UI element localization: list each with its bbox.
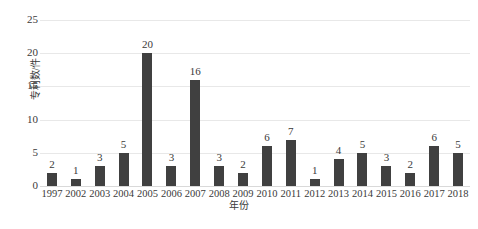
bar[interactable] <box>238 173 248 186</box>
bar[interactable] <box>262 146 272 186</box>
x-axis-tick-label: 2018 <box>446 188 470 200</box>
bar[interactable] <box>166 166 176 186</box>
y-axis-tick-label: 0 <box>4 180 38 191</box>
bar-value-label: 16 <box>190 66 201 77</box>
bar-value-label: 20 <box>142 39 153 50</box>
x-axis-tick-label: 2002 <box>64 188 88 200</box>
bar[interactable] <box>95 166 105 186</box>
y-axis-tick-label: 10 <box>4 114 38 125</box>
x-axis-tick-label: 2014 <box>351 188 375 200</box>
bar-slot: 16 <box>183 20 207 186</box>
bar-value-label: 5 <box>121 139 127 150</box>
bar-slot: 6 <box>255 20 279 186</box>
bar-value-label: 1 <box>312 165 318 176</box>
bar-value-label: 2 <box>240 159 246 170</box>
bar-slot: 7 <box>279 20 303 186</box>
bar-slot: 3 <box>207 20 231 186</box>
bar-slot: 1 <box>64 20 88 186</box>
bar-slot: 3 <box>88 20 112 186</box>
bar[interactable] <box>214 166 224 186</box>
bar-slot: 20 <box>136 20 160 186</box>
bar-value-label: 4 <box>336 145 342 156</box>
x-axis-tick-label: 2009 <box>231 188 255 200</box>
x-axis-tick-label: 2003 <box>88 188 112 200</box>
x-axis-title: 年份 <box>0 200 478 211</box>
bar[interactable] <box>334 159 344 186</box>
bar-slot: 4 <box>327 20 351 186</box>
plot-area: 21352031632671453265 <box>40 20 470 186</box>
y-axis-tick-label: 20 <box>4 47 38 58</box>
x-axis-tick-label: 2007 <box>183 188 207 200</box>
x-axis-tick-label: 2006 <box>159 188 183 200</box>
bar-slot: 6 <box>422 20 446 186</box>
bar[interactable] <box>119 153 129 186</box>
bar-chart-figure: 专利数/件 0510152025 21352031632671453265 19… <box>0 0 478 229</box>
x-axis-tick-label: 2004 <box>112 188 136 200</box>
x-axis-tick-label: 2015 <box>374 188 398 200</box>
bar-slot: 2 <box>231 20 255 186</box>
bar-slot: 1 <box>303 20 327 186</box>
bar-slot: 3 <box>374 20 398 186</box>
bar[interactable] <box>453 153 463 186</box>
top-edge-artifact <box>0 0 478 5</box>
bar-value-label: 6 <box>264 132 270 143</box>
bar[interactable] <box>47 173 57 186</box>
bar-slot: 5 <box>112 20 136 186</box>
x-axis-tick-label: 1997 <box>40 188 64 200</box>
bar[interactable] <box>381 166 391 186</box>
bar-value-label: 2 <box>408 159 414 170</box>
bar-slot: 2 <box>398 20 422 186</box>
bar[interactable] <box>142 53 152 186</box>
y-axis-tick-label: 5 <box>4 147 38 158</box>
bar[interactable] <box>286 140 296 186</box>
bar-value-label: 5 <box>360 139 366 150</box>
x-axis-tick-label: 2017 <box>422 188 446 200</box>
figure-caption <box>0 221 478 229</box>
bar-slot: 5 <box>446 20 470 186</box>
bar-value-label: 3 <box>216 152 222 163</box>
bar-value-label: 2 <box>49 159 55 170</box>
bar[interactable] <box>310 179 320 186</box>
x-axis-tick-label: 2012 <box>303 188 327 200</box>
bar-value-label: 1 <box>73 165 79 176</box>
gridline-0 <box>40 186 470 187</box>
bar-slot: 3 <box>159 20 183 186</box>
y-axis-tick-label: 15 <box>4 80 38 91</box>
bar[interactable] <box>405 173 415 186</box>
bar-value-label: 5 <box>455 139 461 150</box>
x-axis-tick-label: 2008 <box>207 188 231 200</box>
bar-value-label: 3 <box>384 152 390 163</box>
bar[interactable] <box>71 179 81 186</box>
bar-slot: 5 <box>351 20 375 186</box>
x-axis-tick-label: 2010 <box>255 188 279 200</box>
bar-value-label: 3 <box>97 152 103 163</box>
x-axis-tick-label: 2011 <box>279 188 303 200</box>
bar-value-label: 3 <box>169 152 175 163</box>
x-axis-tick-label: 2013 <box>327 188 351 200</box>
bar[interactable] <box>357 153 367 186</box>
y-axis-tick-group: 0510152025 <box>0 20 38 186</box>
y-axis-tick-label: 25 <box>4 14 38 25</box>
bar-value-label: 6 <box>431 132 437 143</box>
x-axis-tick-label: 2005 <box>136 188 160 200</box>
bar-value-label: 7 <box>288 126 294 137</box>
bar-slot: 2 <box>40 20 64 186</box>
x-axis-tick-label: 2016 <box>398 188 422 200</box>
bar[interactable] <box>429 146 439 186</box>
bar[interactable] <box>190 80 200 186</box>
